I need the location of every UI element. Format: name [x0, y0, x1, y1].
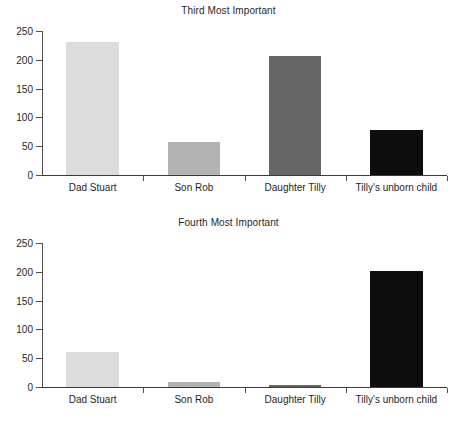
x-axis-category-label: Daughter Tilly	[265, 394, 326, 405]
y-axis-tick-label: 150	[2, 295, 33, 306]
y-axis-tick-label: 200	[2, 266, 33, 277]
y-axis-tick-label: 50	[2, 141, 33, 152]
y-axis-tick-label: 0	[2, 382, 33, 393]
x-axis-tick	[245, 176, 246, 181]
x-axis-tick	[143, 388, 144, 393]
x-axis-tick	[447, 176, 448, 181]
x-axis-category-label: Tilly's unborn child	[356, 182, 438, 193]
x-axis-tick	[447, 388, 448, 393]
bar	[168, 382, 221, 387]
x-axis-category-label: Son Rob	[174, 394, 213, 405]
chart-panel-fourth-most-important: Fourth Most Important 050100150200250 Da…	[0, 212, 457, 424]
bar	[370, 130, 423, 175]
bar	[168, 142, 221, 175]
plot-area-bottom	[42, 243, 447, 387]
y-axis-tick-label: 250	[2, 238, 33, 249]
x-axis-category-label: Tilly's unborn child	[356, 394, 438, 405]
chart-panel-third-most-important: Third Most Important 050100150200250 Dad…	[0, 0, 457, 212]
x-axis-category-label: Dad Stuart	[69, 394, 117, 405]
y-axis-tick-label: 0	[2, 170, 33, 181]
bar	[269, 385, 322, 387]
y-axis-tick-label: 50	[2, 353, 33, 364]
y-axis-tick-label: 200	[2, 54, 33, 65]
y-axis-tick-label: 150	[2, 83, 33, 94]
chart-page: Third Most Important 050100150200250 Dad…	[0, 0, 457, 424]
x-axis-tick	[245, 388, 246, 393]
x-axis-tick	[346, 388, 347, 393]
bar	[66, 42, 119, 175]
y-axis-tick-label: 100	[2, 324, 33, 335]
chart-title-top: Third Most Important	[0, 5, 457, 16]
bar	[269, 56, 322, 175]
y-axis-tick-label: 250	[2, 26, 33, 37]
x-axis-tick	[143, 176, 144, 181]
x-axis-category-label: Dad Stuart	[69, 182, 117, 193]
plot-area-top	[42, 31, 447, 175]
x-axis-category-label: Daughter Tilly	[265, 182, 326, 193]
y-axis-tick	[36, 175, 42, 176]
chart-title-bottom: Fourth Most Important	[0, 217, 457, 228]
y-axis-tick	[36, 387, 42, 388]
bar	[66, 352, 119, 387]
bar	[370, 271, 423, 387]
x-axis-category-label: Son Rob	[174, 182, 213, 193]
x-axis-tick	[346, 176, 347, 181]
y-axis-tick-label: 100	[2, 112, 33, 123]
